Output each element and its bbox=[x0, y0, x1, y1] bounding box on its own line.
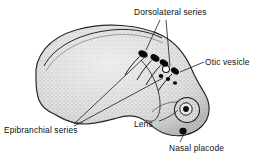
lens-placode-dot bbox=[183, 106, 189, 112]
label-otic-vesicle: Otic vesicle bbox=[205, 57, 250, 67]
epibranchial-placode bbox=[173, 81, 177, 85]
epibranchial-placode bbox=[159, 74, 164, 78]
epibranchial-placode bbox=[166, 77, 170, 81]
label-epibranchial-series: Epibranchial series bbox=[4, 125, 78, 135]
nasal-placode-dot bbox=[179, 128, 186, 134]
label-lens: Lens bbox=[134, 119, 153, 129]
label-dorsolateral-series: Dorsolateral series bbox=[134, 7, 207, 17]
nasal-placode-group bbox=[179, 128, 186, 134]
eye-group bbox=[175, 98, 200, 123]
label-nasal-placode: Nasal placode bbox=[169, 143, 224, 153]
embryo-placode-diagram bbox=[0, 0, 267, 160]
